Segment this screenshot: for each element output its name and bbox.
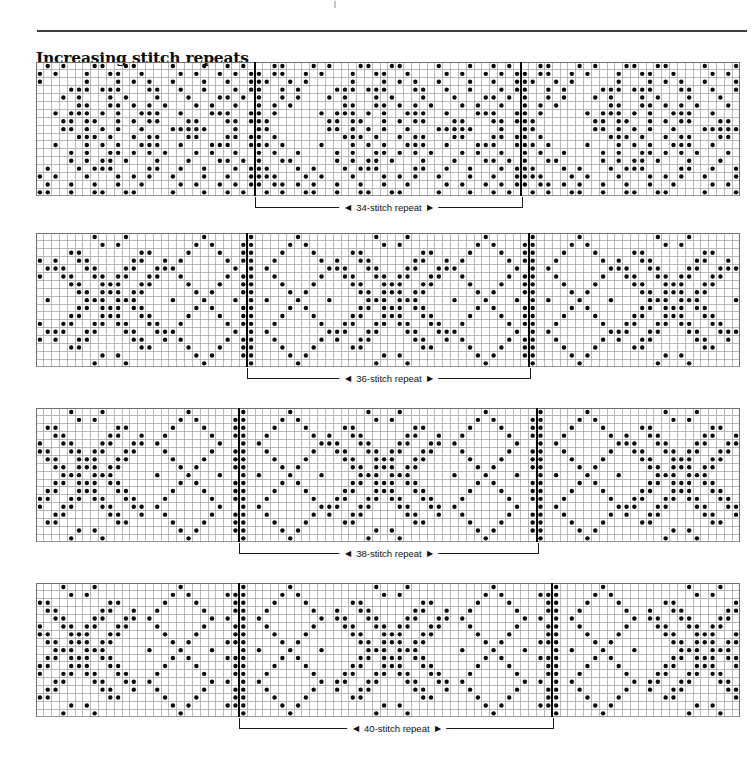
triangle-left-icon: ◀ xyxy=(353,722,359,735)
stitch-chart-grid-40 xyxy=(36,583,740,717)
triangle-left-icon: ◀ xyxy=(345,201,351,214)
chart-grid-svg xyxy=(36,62,740,196)
repeat-label: ◀ 38-stitch repeat ▶ xyxy=(339,547,438,560)
repeat-label: ◀ 36-stitch repeat ▶ xyxy=(339,372,438,385)
stitch-chart-grid-34 xyxy=(36,62,740,196)
repeat-label-text: 38-stitch repeat xyxy=(356,547,421,560)
triangle-right-icon: ▶ xyxy=(427,547,433,560)
repeat-label: ◀ 34-stitch repeat ▶ xyxy=(339,201,438,214)
repeat-label-text: 34-stitch repeat xyxy=(356,201,421,214)
triangle-left-icon: ◀ xyxy=(345,547,351,560)
triangle-left-icon: ◀ xyxy=(345,372,351,385)
repeat-label-text: 40-stitch repeat xyxy=(364,722,429,735)
page-edge-mark xyxy=(334,1,336,8)
triangle-right-icon: ▶ xyxy=(427,372,433,385)
stitch-chart-grid-38 xyxy=(36,408,740,542)
repeat-bracket-40: ◀ 40-stitch repeat ▶ xyxy=(239,718,554,729)
chart-grid-svg xyxy=(36,233,740,367)
triangle-right-icon: ▶ xyxy=(435,722,441,735)
triangle-right-icon: ▶ xyxy=(427,201,433,214)
book-page: Increasing stitch repeats ◀ 34-stitch re… xyxy=(0,0,754,770)
repeat-label: ◀ 40-stitch repeat ▶ xyxy=(347,722,446,735)
top-rule xyxy=(37,30,747,32)
repeat-label-text: 36-stitch repeat xyxy=(356,372,421,385)
repeat-bracket-36: ◀ 36-stitch repeat ▶ xyxy=(247,368,531,379)
repeat-bracket-34: ◀ 34-stitch repeat ▶ xyxy=(255,197,523,208)
repeat-bracket-38: ◀ 38-stitch repeat ▶ xyxy=(239,543,538,554)
stitch-chart-grid-36 xyxy=(36,233,740,367)
chart-grid-svg xyxy=(36,408,740,542)
chart-grid-svg xyxy=(36,583,740,717)
